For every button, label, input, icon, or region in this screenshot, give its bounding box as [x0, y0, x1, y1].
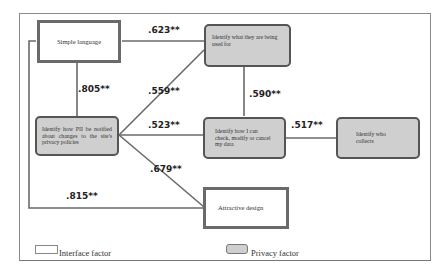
legend-swatch-interface	[35, 245, 58, 254]
legend-swatch-privacy	[226, 244, 248, 254]
edge-label-559: .559**	[148, 86, 180, 96]
node-label: Identify how PII be notified about chang…	[42, 126, 112, 146]
edge-label-623: .623**	[148, 25, 180, 35]
legend-label-privacy: Privacy factor	[251, 248, 299, 258]
node-identify-used-for: Identify what they are being used for	[204, 24, 291, 67]
legend-label-interface: Interface factor	[59, 248, 111, 258]
node-label: Identify how I can check, modify or canc…	[215, 128, 274, 148]
node-label: Identify who collects	[356, 131, 400, 144]
node-identify-who-collects: Identify who collects	[336, 117, 420, 159]
edge-label-679: .679**	[150, 164, 182, 174]
node-label: Attractive design	[218, 204, 263, 212]
edge-label-590: .590**	[249, 89, 281, 99]
edge-label-523: .523**	[148, 120, 180, 130]
node-identify-notified: Identify how PII be notified about chang…	[35, 116, 119, 156]
edge-label-805: .805**	[78, 84, 110, 94]
node-identify-check-modify: Identify how I can check, modify or canc…	[203, 117, 286, 159]
node-simple-language: Simple language	[37, 20, 121, 63]
node-attractive-design: Attractive design	[203, 187, 289, 229]
edge-label-815: .815**	[66, 191, 98, 201]
node-label: Identify what they are being used for	[212, 34, 283, 47]
edge-label-517: .517**	[291, 120, 323, 130]
node-label: Simple language	[57, 38, 101, 46]
